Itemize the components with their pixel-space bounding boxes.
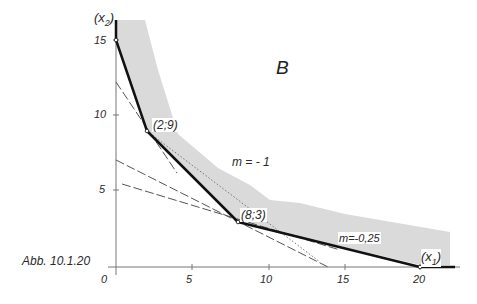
vertex-2-9 (145, 129, 149, 133)
point-label-8-3: (8;3) (240, 208, 267, 222)
x-axis-label-sub: 1 (432, 257, 437, 267)
x-tick-5: 5 (186, 273, 192, 285)
y-tick-10: 10 (94, 108, 106, 120)
figure: (x2) (x1) 0 5 10 15 20 5 10 15 B (2;9) (… (0, 0, 477, 304)
dotted-line-extension (147, 131, 320, 262)
y-axis-label-sub: 2 (105, 18, 110, 28)
x-axis-label-main: (x (421, 249, 432, 264)
x-tick-15: 15 (337, 273, 349, 285)
y-axis-label: (x2) (94, 10, 114, 28)
x-tick-20: 20 (413, 273, 425, 285)
x-tick-0: 0 (101, 273, 107, 285)
x-axis-label: (x1) (421, 249, 441, 267)
slope-label-m-minus-025: m=-0,25 (338, 232, 381, 244)
vertex-0-15 (114, 38, 118, 42)
slope-label-m-minus-1: m = - 1 (230, 155, 272, 169)
region-label-b: B (276, 57, 289, 79)
y-tick-15: 15 (94, 34, 106, 46)
y-axis-label-main: (x (94, 10, 105, 25)
y-tick-5: 5 (99, 183, 105, 195)
point-label-2-9: (2;9) (152, 118, 179, 132)
x-tick-10: 10 (260, 273, 272, 285)
figure-caption: Abb. 10.1.20 (22, 254, 90, 268)
